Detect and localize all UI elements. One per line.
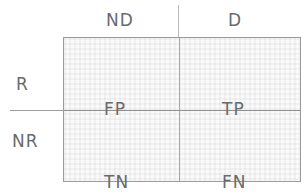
column-header-d: D [228,12,242,29]
row-header-r: R [16,76,29,93]
confusion-matrix-diagram: ND D R NR FP TP TN FN [0,0,308,196]
matrix-box: FP TP TN FN [63,37,301,182]
cell-false-positive: FP [104,101,126,118]
matrix-horizontal-divider [64,110,300,111]
cell-true-negative: TN [104,174,129,191]
cell-true-positive: TP [222,101,245,118]
column-header-nd: ND [106,12,134,29]
row-header-nr: NR [12,133,39,150]
cell-false-negative: FN [222,174,247,191]
